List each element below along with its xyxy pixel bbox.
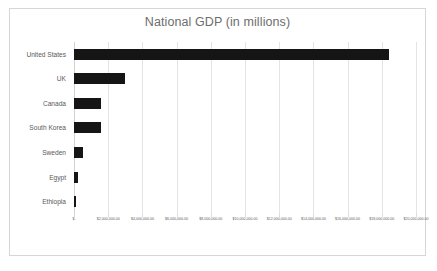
chart-title: National GDP (in millions) (10, 15, 425, 29)
value-axis-label: $4,000,000.00 (131, 217, 154, 221)
bar-row[interactable] (74, 91, 416, 116)
category-axis-label: UK (57, 67, 66, 92)
plot-area (74, 42, 416, 214)
bar-row[interactable] (74, 140, 416, 165)
bar-row[interactable] (74, 67, 416, 92)
value-axis-label: $8,000,000.00 (199, 217, 222, 221)
value-axis: $-$2,000,000.00$4,000,000.00$6,000,000.0… (74, 217, 416, 229)
category-axis-label: United States (26, 42, 66, 67)
bar-row[interactable] (74, 42, 416, 67)
value-axis-label: $16,000,000.00 (335, 217, 360, 221)
value-axis-label: $12,000,000.00 (267, 217, 292, 221)
bar[interactable] (74, 98, 101, 109)
gridline (416, 42, 417, 214)
bar[interactable] (74, 172, 78, 183)
category-axis-label: Ethiopia (42, 189, 66, 214)
bar[interactable] (74, 122, 101, 133)
value-axis-label: $- (72, 217, 75, 221)
bar-series (74, 42, 416, 214)
value-axis-label: $10,000,000.00 (233, 217, 258, 221)
bar-row[interactable] (74, 116, 416, 141)
chart-frame: National GDP (in millions) United States… (9, 8, 426, 256)
category-axis-label: South Korea (29, 116, 66, 141)
bar[interactable] (74, 196, 76, 207)
bar[interactable] (74, 49, 389, 60)
bar-row[interactable] (74, 165, 416, 190)
value-axis-label: $18,000,000.00 (369, 217, 394, 221)
value-axis-label: $14,000,000.00 (301, 217, 326, 221)
value-axis-label: $2,000,000.00 (97, 217, 120, 221)
category-axis-label: Egypt (49, 165, 66, 190)
category-axis: United StatesUKCanadaSouth KoreaSwedenEg… (10, 42, 70, 214)
value-axis-label: $20,000,000.00 (404, 217, 429, 221)
bar[interactable] (74, 73, 125, 84)
category-axis-label: Canada (43, 91, 66, 116)
value-axis-label: $6,000,000.00 (165, 217, 188, 221)
bar-row[interactable] (74, 189, 416, 214)
category-axis-label: Sweden (42, 140, 66, 165)
bar[interactable] (74, 147, 83, 158)
